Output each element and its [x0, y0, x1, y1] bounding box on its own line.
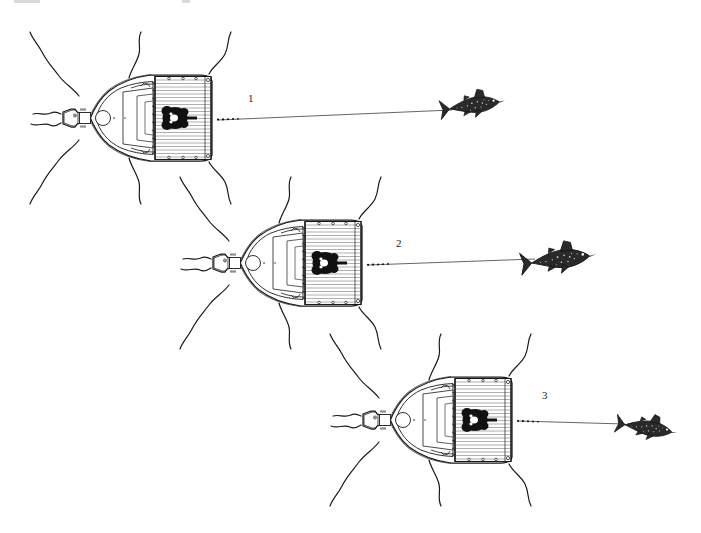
fishing-line-3 — [518, 421, 625, 424]
scan-artifact-left — [14, 0, 40, 3]
illustration-canvas: 1 2 — [0, 0, 701, 533]
scene-3: 3 — [330, 334, 680, 506]
sequence-label-3: 3 — [542, 389, 548, 401]
fishing-line-2 — [368, 259, 535, 265]
fishing-line-1 — [218, 110, 452, 120]
figure-svg: 1 2 — [0, 0, 701, 533]
scan-artifact-right — [182, 0, 190, 3]
sequence-label-1: 1 — [248, 92, 254, 104]
hooked-game-fish-2 — [519, 238, 598, 278]
hooked-game-fish-3 — [614, 408, 680, 444]
sequence-label-2: 2 — [396, 237, 402, 249]
sport-fishing-boat-2 — [213, 220, 362, 307]
sport-fishing-boat-1 — [63, 75, 212, 162]
scene-2: 2 — [180, 177, 598, 349]
hooked-game-fish-1 — [438, 86, 506, 121]
scene-1: 1 — [30, 32, 507, 204]
sport-fishing-boat-3 — [363, 377, 512, 464]
